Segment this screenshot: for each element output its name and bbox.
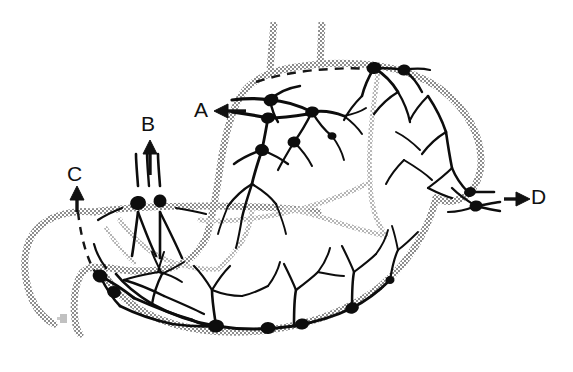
figure-root: A B C D	[0, 0, 573, 372]
label-c: C	[67, 163, 82, 184]
lymph-node	[328, 132, 337, 140]
label-a: A	[194, 99, 208, 120]
arrow-C	[70, 186, 84, 212]
lymph-node	[304, 105, 320, 119]
lymph-node	[386, 276, 395, 284]
stomach-lymphatic-diagram	[0, 0, 573, 372]
label-b: B	[141, 113, 155, 134]
arrow-B	[143, 140, 157, 175]
lymph-node	[254, 143, 270, 157]
label-d: D	[531, 186, 546, 207]
arrow-D	[504, 192, 530, 206]
scan-artifact	[57, 314, 67, 323]
